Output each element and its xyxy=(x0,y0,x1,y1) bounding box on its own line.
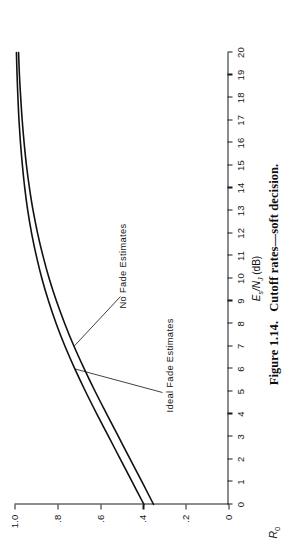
x-tick-label: 6 xyxy=(234,366,245,371)
x-tick-label: 9 xyxy=(234,298,245,303)
x-tick-label: 15 xyxy=(234,160,245,171)
y-tick xyxy=(100,504,101,509)
leader-line-no-fade-estimates xyxy=(74,296,121,346)
x-tick-label: 2 xyxy=(234,456,245,461)
x-tick-label: 0 xyxy=(234,501,245,506)
x-tick-label: 18 xyxy=(234,92,245,103)
x-tick-label: 4 xyxy=(234,411,245,416)
x-axis-title-es: Es xyxy=(250,291,261,301)
x-tick-label: 1 xyxy=(234,479,245,484)
x-tick-label: 10 xyxy=(234,273,245,284)
y-tick-label: 0 xyxy=(223,514,234,519)
y-tick-label: .4 xyxy=(137,514,148,522)
x-tick-label: 13 xyxy=(234,205,245,216)
x-tick-label: 8 xyxy=(234,320,245,325)
y-tick xyxy=(14,504,15,509)
annotation-ideal-fade-estimates: Ideal Fade Estimates xyxy=(164,318,174,412)
y-tick-label: 1.0 xyxy=(9,514,20,528)
curve-no-fade-estimates xyxy=(18,52,153,504)
x-tick-label: 19 xyxy=(234,69,245,80)
x-tick-label: 7 xyxy=(234,343,245,348)
x-tick-label: 17 xyxy=(234,114,245,125)
y-tick-label: .2 xyxy=(180,514,191,522)
figure-1-14: 01234567891011121314151617181920 0.2.4.6… xyxy=(0,0,301,548)
x-tick-label: 11 xyxy=(234,250,245,260)
x-tick-label: 5 xyxy=(234,388,245,393)
x-tick-label: 16 xyxy=(234,137,245,148)
annotation-no-fade-estimates: No Fade Estimates xyxy=(117,223,127,308)
x-tick-label: 3 xyxy=(234,433,245,438)
figure-page: 01234567891011121314151617181920 0.2.4.6… xyxy=(0,0,301,548)
x-axis-title-nj: /NJ xyxy=(250,277,261,291)
y-tick xyxy=(228,504,229,509)
y-tick xyxy=(57,504,58,509)
y-tick xyxy=(185,504,186,509)
plot-area: 01234567891011121314151617181920 0.2.4.6… xyxy=(14,52,228,504)
y-tick-label: .8 xyxy=(51,514,62,522)
figure-caption-text: Cutoff rates—soft decision. xyxy=(266,163,280,311)
y-tick-label: .6 xyxy=(94,514,105,522)
x-tick-label: 14 xyxy=(234,182,245,193)
x-tick-label: 12 xyxy=(234,227,245,238)
rotated-page-content: 01234567891011121314151617181920 0.2.4.6… xyxy=(0,0,301,548)
figure-caption-label: Figure 1.14. xyxy=(266,320,280,385)
leader-line-ideal-fade-estimates xyxy=(74,368,162,392)
x-axis-title-units: (dB) xyxy=(250,255,261,274)
x-tick-label: 20 xyxy=(234,47,245,58)
x-axis-title: Es/NJ (dB) xyxy=(250,255,263,300)
figure-caption: Figure 1.14.Cutoff rates—soft decision. xyxy=(266,0,281,548)
